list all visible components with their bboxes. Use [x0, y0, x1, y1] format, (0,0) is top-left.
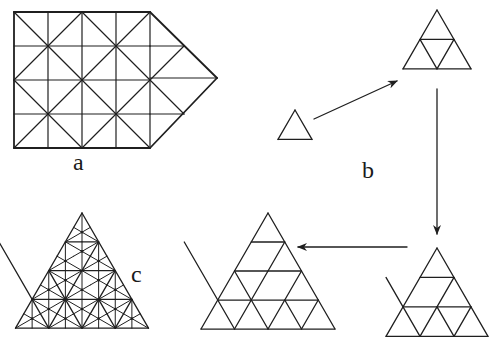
- diagram-canvas: [0, 0, 498, 356]
- triangle-order-4-diag-line: [285, 300, 302, 329]
- arrow-order1-to-order2: [314, 81, 397, 119]
- centroid-dot: [97, 260, 100, 263]
- triangle-order-3-diag-line: [454, 307, 471, 336]
- triangle-order-2-diag-line: [437, 39, 454, 68]
- centroid-dot: [114, 308, 117, 311]
- figure-a-grid: [14, 12, 217, 148]
- triangle-c-diag-line: [0, 242, 49, 328]
- centroid-dot: [81, 231, 84, 234]
- centroid-dot: [31, 317, 34, 320]
- triangle-order-4-diag-line: [184, 242, 234, 329]
- centroid-dot: [97, 279, 100, 282]
- centroid-dot: [47, 308, 50, 311]
- figure-b-triangle-sequence: [184, 10, 488, 336]
- triangle-order-3-edge: [386, 248, 437, 336]
- centroid-dot: [64, 317, 67, 320]
- tip-diagonal: [150, 80, 184, 114]
- triangle-order-2-diag-line: [420, 39, 437, 68]
- triangle-order-4-diag-line: [302, 300, 319, 329]
- centroid-dot: [81, 308, 84, 311]
- centroid-dot: [131, 317, 134, 320]
- centroid-dot: [97, 317, 100, 320]
- figure-c-barycentric-triangle: [0, 213, 149, 328]
- centroid-dot: [114, 288, 117, 291]
- triangle-order-1-edge: [278, 110, 295, 139]
- centroid-dot: [64, 260, 67, 263]
- label-c: c: [131, 262, 142, 286]
- label-b: b: [362, 158, 374, 182]
- triangle-order-4-diag-line: [235, 242, 285, 329]
- centroid-dot: [81, 288, 84, 291]
- centroid-dot: [81, 250, 84, 253]
- triangle-order-1-edge: [295, 110, 312, 139]
- label-a: a: [73, 150, 84, 174]
- centroid-dot: [64, 279, 67, 282]
- triangle-order-3-diag-line: [437, 307, 454, 336]
- tip-diagonal: [150, 46, 184, 80]
- centroid-dot: [47, 288, 50, 291]
- triangle-order-3-edge: [437, 248, 488, 336]
- tip-edge: [150, 12, 217, 78]
